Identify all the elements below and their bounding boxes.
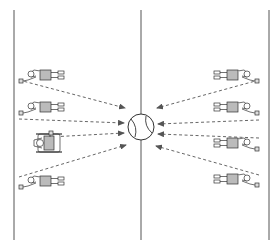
right-player-3-shot-arrow xyxy=(158,134,259,138)
diagram-canvas xyxy=(0,0,276,248)
left-player-3-figure-icon xyxy=(34,131,62,152)
left-player-1-figure-icon xyxy=(19,70,64,83)
left-player-2-shot-arrow xyxy=(19,119,124,123)
tennis-ball-icon xyxy=(128,114,154,140)
right-player-1-figure-icon xyxy=(214,70,259,83)
right-player-2-figure-icon xyxy=(214,102,259,115)
left-player-4-shot-arrow xyxy=(19,145,126,177)
drill-diagram xyxy=(0,0,276,248)
left-player-2-figure-icon xyxy=(19,102,64,115)
right-player-4-shot-arrow xyxy=(156,146,259,175)
right-player-2-shot-arrow xyxy=(158,120,259,124)
left-player-4-figure-icon xyxy=(19,176,64,189)
right-player-4-figure-icon xyxy=(214,174,259,187)
right-player-3-figure-icon xyxy=(214,138,259,151)
